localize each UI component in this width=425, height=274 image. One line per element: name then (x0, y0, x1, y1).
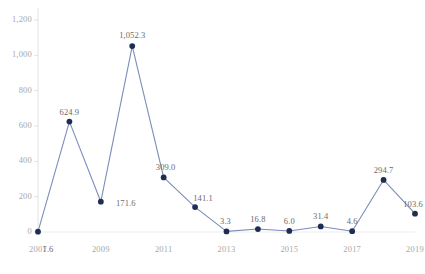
data-point-label: 1.6 (23, 244, 73, 254)
data-point-marker[interactable] (318, 224, 324, 230)
y-tick-label: 1,200 (12, 14, 32, 24)
data-point-marker[interactable] (381, 177, 387, 183)
y-tick-label: 0 (28, 226, 32, 236)
chart-canvas (0, 0, 425, 274)
x-tick-label: 2017 (328, 244, 376, 254)
data-point-marker[interactable] (35, 229, 41, 235)
data-point-marker[interactable] (224, 229, 230, 235)
y-tick-marks (34, 20, 38, 232)
data-line (38, 46, 415, 232)
data-point-label: 103.6 (388, 199, 425, 209)
data-point-label: 171.6 (101, 198, 151, 208)
data-point-label: 1,052.3 (107, 30, 157, 40)
data-point-marker[interactable] (161, 175, 167, 181)
x-tick-label: 2019 (391, 244, 425, 254)
data-point-label: 4.6 (327, 216, 377, 226)
data-point-label: 141.1 (178, 193, 228, 203)
data-point-marker[interactable] (255, 226, 261, 232)
data-point-label: 624.9 (44, 107, 94, 117)
y-tick-label: 600 (19, 120, 32, 130)
data-point-marker[interactable] (412, 211, 418, 217)
y-tick-label: 400 (19, 155, 32, 165)
x-tick-label: 2011 (140, 244, 188, 254)
data-point-marker[interactable] (192, 204, 198, 210)
data-point-label: 309.0 (141, 162, 191, 172)
data-point-marker[interactable] (67, 119, 73, 125)
data-point-label: 294.7 (359, 165, 409, 175)
y-tick-label: 800 (19, 85, 32, 95)
x-tick-label: 2009 (77, 244, 125, 254)
y-tick-label: 1,000 (12, 49, 32, 59)
data-point-marker[interactable] (349, 228, 355, 234)
x-tick-label: 2013 (203, 244, 251, 254)
line-chart: 02004006008001,0001,200 2007200920112013… (0, 0, 425, 274)
x-tick-label: 2015 (265, 244, 313, 254)
data-point-marker[interactable] (129, 43, 135, 49)
data-point-marker[interactable] (286, 228, 292, 234)
y-tick-label: 200 (19, 191, 32, 201)
data-markers (35, 43, 418, 234)
